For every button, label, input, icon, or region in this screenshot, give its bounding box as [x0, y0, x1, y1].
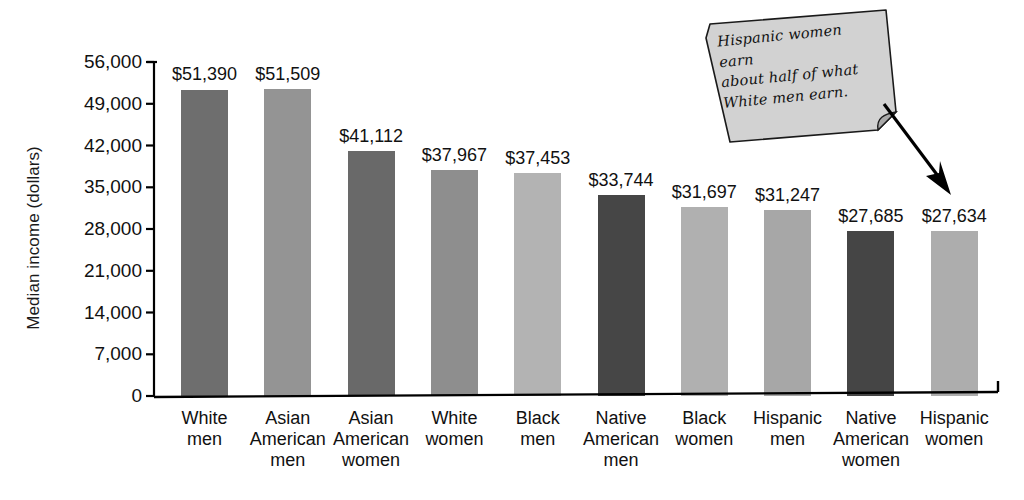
x-axis-category-label: Whitemen — [157, 408, 252, 450]
x-axis-category-label-line: men — [740, 429, 835, 450]
x-axis-category-label: Blackwomen — [657, 408, 752, 450]
x-axis-category-label: Hispanicmen — [740, 408, 835, 450]
y-axis-tick-label: 14,000 — [50, 303, 142, 322]
x-axis-category-label: Hispanicwomen — [907, 408, 1002, 450]
x-axis-category-label: Blackmen — [490, 408, 585, 450]
x-axis-category-label: NativeAmericanmen — [574, 408, 669, 472]
y-axis-tick-label: 42,000 — [50, 136, 142, 155]
x-axis-category-label-line: American — [324, 429, 419, 450]
x-axis-category-label-line: women — [823, 450, 918, 471]
bar — [431, 170, 478, 396]
bar — [348, 151, 395, 396]
x-axis-category-label-line: Asian — [240, 408, 335, 429]
y-axis-title: Median income (dollars) — [24, 88, 44, 388]
bar — [764, 210, 811, 396]
bar — [514, 173, 561, 396]
y-axis-tick-labels: 56,00049,00042,00035,00028,00021,00014,0… — [42, 0, 142, 500]
x-axis-category-label-line: Hispanic — [907, 408, 1002, 429]
x-axis-category-label-line: Black — [490, 408, 585, 429]
x-axis-category-label: AsianAmericanmen — [240, 408, 335, 472]
callout-annotation-text: Hispanic women earnabout half of whatWhi… — [716, 17, 875, 114]
x-axis-category-label-line: Asian — [324, 408, 419, 429]
bar-value-label: $41,112 — [322, 127, 421, 145]
x-axis-category-label-line: men — [240, 450, 335, 471]
x-axis-category-label-line: Native — [823, 408, 918, 429]
bar — [847, 231, 894, 396]
bar — [264, 89, 311, 396]
y-axis-tick-label: 56,000 — [50, 52, 142, 71]
x-axis-category-label-line: White — [407, 408, 502, 429]
x-axis-category-label-line: men — [574, 450, 669, 471]
x-axis-category-label-line: American — [240, 429, 335, 450]
x-axis-category-label-line: women — [324, 450, 419, 471]
x-axis-category-label-line: American — [823, 429, 918, 450]
x-axis-category-label: Whitewomen — [407, 408, 502, 450]
y-axis-tick-label: 49,000 — [50, 94, 142, 113]
y-axis-tick-marks — [146, 62, 154, 396]
x-axis-category-label-line: men — [490, 429, 585, 450]
y-axis-tick-label: 0 — [50, 386, 142, 405]
bar-value-label: $27,634 — [905, 207, 1004, 225]
x-axis-category-label-line: Hispanic — [740, 408, 835, 429]
x-axis-category-label-line: men — [157, 429, 252, 450]
y-axis-tick-label: 28,000 — [50, 219, 142, 238]
bar-value-label: $51,509 — [238, 65, 337, 83]
x-axis-category-label-line: White — [157, 408, 252, 429]
x-axis-category-label: AsianAmericanwomen — [324, 408, 419, 472]
bar — [931, 231, 978, 396]
bar — [181, 90, 228, 397]
bar-chart: Median income (dollars) 56,00049,00042,0… — [0, 0, 1024, 500]
bar — [681, 207, 728, 396]
x-axis-category-label-line: Black — [657, 408, 752, 429]
callout-text-container: Hispanic women earnabout half of whatWhi… — [706, 8, 888, 130]
bar-value-label: $37,453 — [488, 149, 587, 167]
y-axis-tick-label: 35,000 — [50, 177, 142, 196]
bar-value-label: $31,247 — [738, 186, 837, 204]
x-axis-category-label-line: Native — [574, 408, 669, 429]
x-axis-category-label-line: American — [574, 429, 669, 450]
x-axis-category-label-line: women — [907, 429, 1002, 450]
x-axis-category-label-line: women — [657, 429, 752, 450]
x-axis-category-label: NativeAmericanwomen — [823, 408, 918, 472]
y-axis-tick-label: 7,000 — [50, 344, 142, 363]
x-axis-category-label-line: women — [407, 429, 502, 450]
bar — [598, 195, 645, 396]
y-axis-tick-label: 21,000 — [50, 261, 142, 280]
